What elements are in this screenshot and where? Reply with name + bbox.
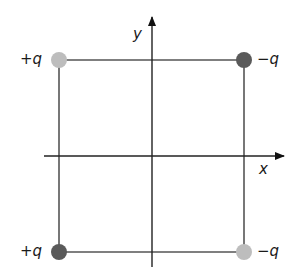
diagram-graphic — [0, 0, 296, 273]
x-axis-label: x — [259, 162, 268, 177]
charge-square-diagram: y x +q −q +q −q — [0, 0, 296, 273]
charge-top-right — [236, 52, 252, 68]
charge-label-bottom-right: −q — [257, 244, 279, 259]
charge-top-left — [51, 52, 67, 68]
charge-label-bottom-left: +q — [20, 244, 42, 259]
charge-bottom-left — [51, 244, 67, 260]
charge-bottom-right — [236, 244, 252, 260]
charge-label-top-right: −q — [257, 52, 279, 67]
charge-label-top-left: +q — [20, 52, 42, 67]
y-axis-label: y — [133, 27, 142, 42]
